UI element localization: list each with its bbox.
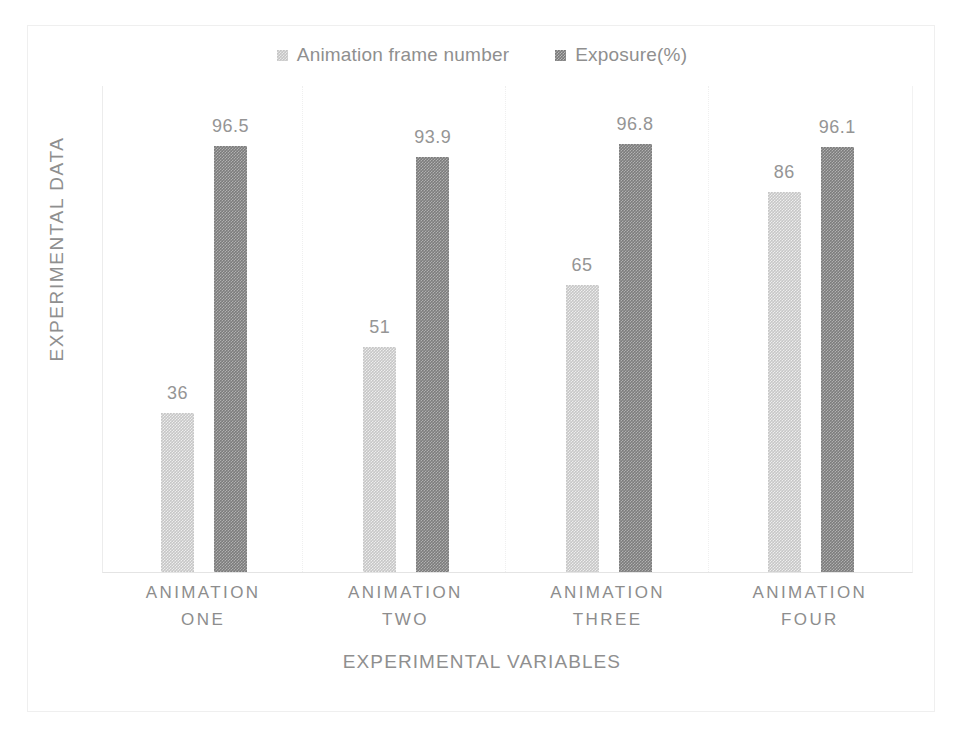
legend-swatch-icon-exposure: [555, 50, 566, 61]
bar-item[interactable]: 96.8: [619, 86, 652, 572]
bar-group: 6596.8: [508, 86, 710, 572]
chart-frame: Animation frame number Exposure(%) EXPER…: [27, 25, 935, 712]
legend-label-exposure: Exposure(%): [575, 44, 687, 66]
x-tick-label-line: ONE: [102, 606, 304, 633]
bar-exposure[interactable]: [416, 157, 449, 572]
bar-exposure[interactable]: [619, 144, 652, 572]
x-tick-label-line: ANIMATION: [102, 579, 304, 606]
x-tick-label-animation-four: ANIMATIONFOUR: [709, 579, 911, 633]
bar-value-label: 86: [774, 162, 795, 183]
x-tick-label-line: ANIMATION: [709, 579, 911, 606]
bar-group: 8696.1: [710, 86, 912, 572]
bar-exposure[interactable]: [214, 146, 247, 572]
bar-item[interactable]: 96.1: [821, 86, 854, 572]
bar-group: 3696.5: [103, 86, 305, 572]
bar-item[interactable]: 36: [161, 86, 194, 572]
x-tick-label-line: TWO: [304, 606, 506, 633]
legend-label-animation-frame-number: Animation frame number: [297, 44, 509, 66]
bar-item[interactable]: 86: [768, 86, 801, 572]
bar-item[interactable]: 96.5: [214, 86, 247, 572]
x-tick-label-line: THREE: [507, 606, 709, 633]
chart-legend: Animation frame number Exposure(%): [28, 44, 936, 66]
bar-item[interactable]: 93.9: [416, 86, 449, 572]
x-tick-label-line: ANIMATION: [304, 579, 506, 606]
bar-value-label: 65: [572, 255, 593, 276]
legend-item-animation-frame-number[interactable]: Animation frame number: [277, 44, 509, 66]
y-axis-title: EXPERIMENTAL DATA: [46, 79, 68, 419]
bar-animation-frame-number[interactable]: [566, 285, 599, 572]
bar-group: 5193.9: [305, 86, 507, 572]
x-tick-label-animation-two: ANIMATIONTWO: [304, 579, 506, 633]
bar-item[interactable]: 65: [566, 86, 599, 572]
bar-item[interactable]: 51: [363, 86, 396, 572]
bar-animation-frame-number[interactable]: [768, 192, 801, 572]
x-tick-label-animation-one: ANIMATIONONE: [102, 579, 304, 633]
bar-value-label: 93.9: [414, 127, 451, 148]
bar-animation-frame-number[interactable]: [363, 347, 396, 572]
plot-area: 3696.55193.96596.88696.1: [102, 86, 913, 573]
bar-value-label: 96.1: [819, 117, 856, 138]
x-axis-title: EXPERIMENTAL VARIABLES: [28, 651, 936, 673]
bar-value-label: 96.8: [617, 114, 654, 135]
legend-item-exposure[interactable]: Exposure(%): [555, 44, 687, 66]
x-tick-label-line: FOUR: [709, 606, 911, 633]
legend-swatch-icon-animation-frame-number: [277, 50, 288, 61]
x-tick-label-animation-three: ANIMATIONTHREE: [507, 579, 709, 633]
bar-value-label: 51: [369, 317, 390, 338]
bar-animation-frame-number[interactable]: [161, 413, 194, 572]
bar-value-label: 96.5: [212, 116, 249, 137]
bar-value-label: 36: [167, 383, 188, 404]
x-tick-label-line: ANIMATION: [507, 579, 709, 606]
x-axis-tick-labels: ANIMATIONONEANIMATIONTWOANIMATIONTHREEAN…: [102, 579, 913, 649]
bar-exposure[interactable]: [821, 147, 854, 572]
